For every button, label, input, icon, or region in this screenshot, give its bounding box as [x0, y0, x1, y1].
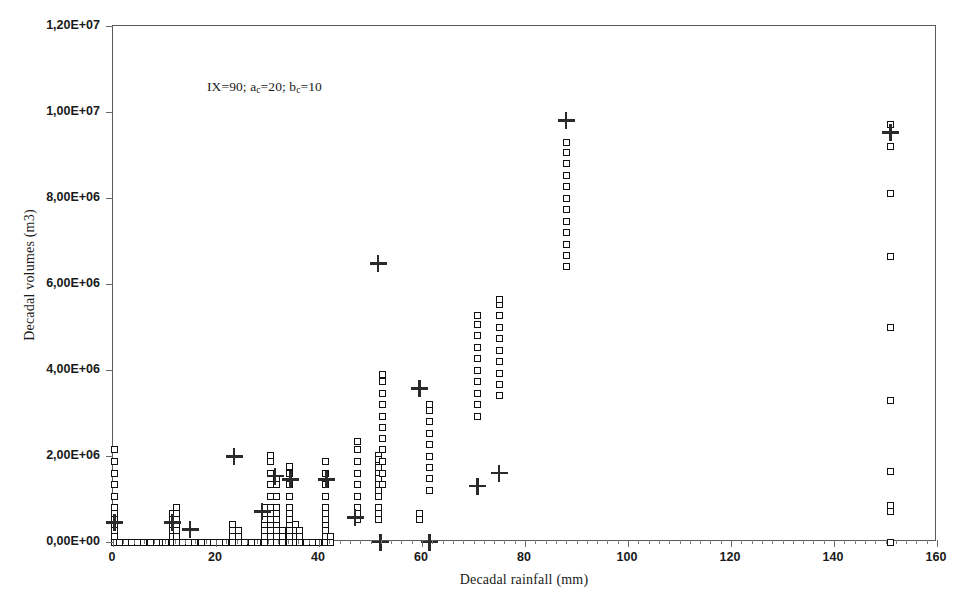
data-point-square — [379, 458, 386, 465]
data-point-square — [474, 312, 481, 319]
x-tick-minor-mark — [226, 540, 227, 544]
x-tick-label: 80 — [494, 550, 554, 564]
x-tick-minor-mark — [154, 540, 155, 544]
x-tick-minor-mark — [515, 540, 516, 544]
data-point-square — [563, 263, 570, 270]
data-point-plus — [469, 478, 486, 495]
x-tick-minor-mark — [700, 540, 701, 544]
x-tick-minor-mark — [340, 540, 341, 544]
x-tick-minor-mark — [288, 540, 289, 544]
data-point-square — [379, 435, 386, 442]
x-tick-minor-mark — [165, 540, 166, 544]
plot-frame — [112, 25, 936, 541]
x-tick-minor-mark — [504, 540, 505, 544]
data-point-square — [379, 481, 386, 488]
x-tick-minor-mark — [896, 540, 897, 544]
data-point-square — [474, 321, 481, 328]
data-point-square — [322, 493, 329, 500]
y-tick-mark — [106, 284, 113, 285]
data-point-square — [273, 510, 280, 517]
x-tick-mark — [525, 540, 526, 547]
data-point-square — [111, 458, 118, 465]
data-point-square — [173, 504, 180, 511]
x-tick-minor-mark — [618, 540, 619, 544]
data-point-plus — [558, 112, 575, 129]
data-point-square — [267, 452, 274, 459]
data-point-square — [273, 493, 280, 500]
x-tick-minor-mark — [278, 540, 279, 544]
data-point-square — [563, 252, 570, 259]
x-tick-minor-mark — [535, 540, 536, 544]
x-tick-minor-mark — [185, 540, 186, 544]
data-point-square — [496, 335, 503, 342]
data-point-square — [887, 190, 894, 197]
x-tick-minor-mark — [587, 540, 588, 544]
chart-figure: Decadal volumes (m3) Decadal rainfall (m… — [0, 0, 972, 605]
x-tick-label: 40 — [288, 550, 348, 564]
y-tick-mark — [106, 456, 113, 457]
x-tick-minor-mark — [659, 540, 660, 544]
data-point-square — [563, 149, 570, 156]
x-tick-minor-mark — [237, 540, 238, 544]
x-tick-label: 140 — [803, 550, 863, 564]
chart-annotation: IX=90; ac=20; bc=10 — [207, 79, 322, 95]
x-tick-mark — [319, 540, 320, 547]
x-tick-label: 0 — [82, 550, 142, 564]
x-tick-minor-mark — [772, 540, 773, 544]
x-tick-minor-mark — [443, 540, 444, 544]
x-tick-minor-mark — [865, 540, 866, 544]
x-tick-minor-mark — [803, 540, 804, 544]
x-tick-minor-mark — [309, 540, 310, 544]
x-tick-minor-mark — [669, 540, 670, 544]
data-point-square — [887, 324, 894, 331]
data-point-square — [474, 355, 481, 362]
x-tick-mark — [628, 540, 629, 547]
data-point-square — [416, 510, 423, 517]
data-point-square — [887, 468, 894, 475]
data-point-square — [354, 493, 361, 500]
data-point-square — [379, 413, 386, 420]
data-point-square — [496, 381, 503, 388]
x-tick-minor-mark — [752, 540, 753, 544]
x-tick-minor-mark — [247, 540, 248, 544]
data-point-square — [111, 493, 118, 500]
y-tick-label: 8,00E+06 — [0, 190, 100, 204]
x-axis-title: Decadal rainfall (mm) — [112, 572, 936, 588]
y-tick-label: 0,00E+00 — [0, 534, 100, 548]
x-tick-minor-mark — [813, 540, 814, 544]
data-point-square — [267, 458, 274, 465]
data-point-square — [379, 446, 386, 453]
data-point-square — [111, 504, 118, 511]
data-point-square — [496, 358, 503, 365]
data-point-square — [111, 446, 118, 453]
data-point-plus — [370, 255, 387, 272]
y-tick-mark — [106, 370, 113, 371]
x-tick-minor-mark — [474, 540, 475, 544]
x-tick-minor-mark — [690, 540, 691, 544]
x-tick-minor-mark — [206, 540, 207, 544]
data-point-square — [426, 418, 433, 425]
data-point-plus — [282, 471, 299, 488]
x-tick-minor-mark — [906, 540, 907, 544]
data-point-square — [563, 160, 570, 167]
data-point-square — [563, 139, 570, 146]
x-tick-minor-mark — [886, 540, 887, 544]
data-point-square — [426, 441, 433, 448]
y-tick-label: 2,00E+06 — [0, 448, 100, 462]
x-tick-label: 160 — [906, 550, 966, 564]
x-tick-label: 120 — [700, 550, 760, 564]
x-tick-minor-mark — [401, 540, 402, 544]
x-tick-minor-mark — [381, 540, 382, 544]
x-tick-minor-mark — [649, 540, 650, 544]
data-point-plus — [164, 514, 181, 531]
x-tick-label: 20 — [185, 550, 245, 564]
data-point-square — [563, 183, 570, 190]
data-point-square — [286, 504, 293, 511]
x-tick-minor-mark — [638, 540, 639, 544]
data-point-square — [563, 206, 570, 213]
y-tick-mark — [106, 26, 113, 27]
data-point-square — [426, 464, 433, 471]
data-point-square — [496, 370, 503, 377]
data-point-square — [379, 470, 386, 477]
data-point-plus — [254, 503, 271, 520]
